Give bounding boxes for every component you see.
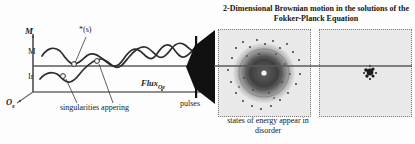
- axis-tick-dot: [32, 36, 34, 38]
- singularity-marker: [95, 59, 100, 64]
- pulse-arrow-bar: [195, 36, 197, 98]
- flux-label-text: Flux: [141, 78, 158, 88]
- leader-line-singularity-a: [66, 79, 77, 103]
- plot-disordered-states: [218, 29, 311, 117]
- curve-label-Ir: Ir: [28, 73, 33, 81]
- brownian-title: 2-Dimensional Brownian motion in the sol…: [218, 4, 414, 24]
- plot-bg: [320, 30, 411, 116]
- marker-label-star: *(s): [79, 26, 91, 34]
- annotation-singularities: singularities appering: [60, 104, 129, 112]
- axis-tick-dot: [19, 100, 21, 102]
- energy-cloud-core: [261, 70, 266, 75]
- singularity-marker: [61, 74, 66, 79]
- flux-label-sub: Oe: [158, 84, 165, 90]
- figure-root: M M Ir Oe *(s) FluxOe singularities appe…: [0, 0, 415, 144]
- flux-label: FluxOe: [141, 79, 165, 90]
- plot-ordered-svg: [320, 30, 411, 116]
- annotation-pulses: pulses: [180, 100, 200, 108]
- plot-ordered-state: [319, 29, 412, 117]
- origin-label-sub: e: [12, 103, 14, 109]
- pulse-arrow-tail: [197, 30, 215, 104]
- plot-disordered-svg: [219, 30, 310, 116]
- brownian-caption: states of energy appear in disorder: [218, 116, 318, 136]
- leader-line-star: [75, 37, 86, 63]
- right-panel: 2-Dimensional Brownian motion in the sol…: [214, 0, 415, 144]
- axis-label-M: M: [25, 27, 33, 36]
- curve-label-M: M: [28, 47, 36, 56]
- left-diagram: M M Ir Oe *(s) FluxOe singularities appe…: [0, 0, 215, 144]
- origin-label: Oe: [6, 98, 15, 109]
- leader-line-singularity-b: [99, 64, 113, 103]
